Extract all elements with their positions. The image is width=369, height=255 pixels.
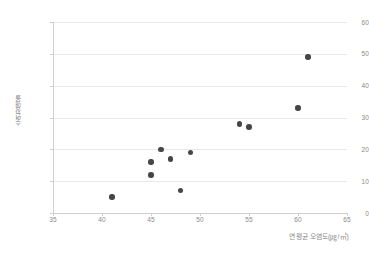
y-axis-line <box>53 22 54 214</box>
data-point <box>295 105 300 110</box>
data-point <box>148 172 153 177</box>
gridline-60 <box>53 22 347 23</box>
x-tick-label-55: 55 <box>236 216 262 224</box>
gridline-10 <box>53 181 347 182</box>
x-tick-label-45: 45 <box>138 216 164 224</box>
y-tick-label-30: 30 <box>323 114 369 121</box>
scatter-chart: 60 50 40 30 20 10 0 35 40 45 50 55 60 65… <box>0 0 369 255</box>
plot-area <box>53 22 347 213</box>
gridline-40 <box>53 86 347 87</box>
gridline-30 <box>53 118 347 119</box>
data-point <box>246 124 251 129</box>
y-tick-mark <box>50 181 53 182</box>
y-tick-label-10: 10 <box>323 178 369 185</box>
y-tick-mark <box>50 22 53 23</box>
x-tick-label-50: 50 <box>187 216 213 224</box>
data-point <box>168 156 173 161</box>
data-point <box>237 121 242 126</box>
data-point <box>148 159 153 164</box>
x-axis-title: 연평균 오염도(㎍/㎥) <box>0 232 349 241</box>
gridline-50 <box>53 54 347 55</box>
y-axis-title: 수면장애율 <box>14 96 28 126</box>
data-point <box>109 194 114 199</box>
y-tick-mark <box>50 118 53 119</box>
y-tick-mark <box>50 149 53 150</box>
x-tick-label-35: 35 <box>40 216 66 224</box>
y-tick-label-60: 60 <box>323 19 369 26</box>
y-tick-label-40: 40 <box>323 82 369 89</box>
x-tick-label-40: 40 <box>89 216 115 224</box>
data-point <box>305 54 310 59</box>
data-point <box>158 147 163 152</box>
y-tick-label-20: 20 <box>323 146 369 153</box>
gridline-20 <box>53 149 347 150</box>
y-tick-mark <box>50 86 53 87</box>
x-tick-label-60: 60 <box>285 216 311 224</box>
y-tick-mark <box>50 54 53 55</box>
data-point <box>188 150 193 155</box>
y-tick-label-50: 50 <box>323 50 369 57</box>
x-tick-label-65: 65 <box>334 216 360 224</box>
